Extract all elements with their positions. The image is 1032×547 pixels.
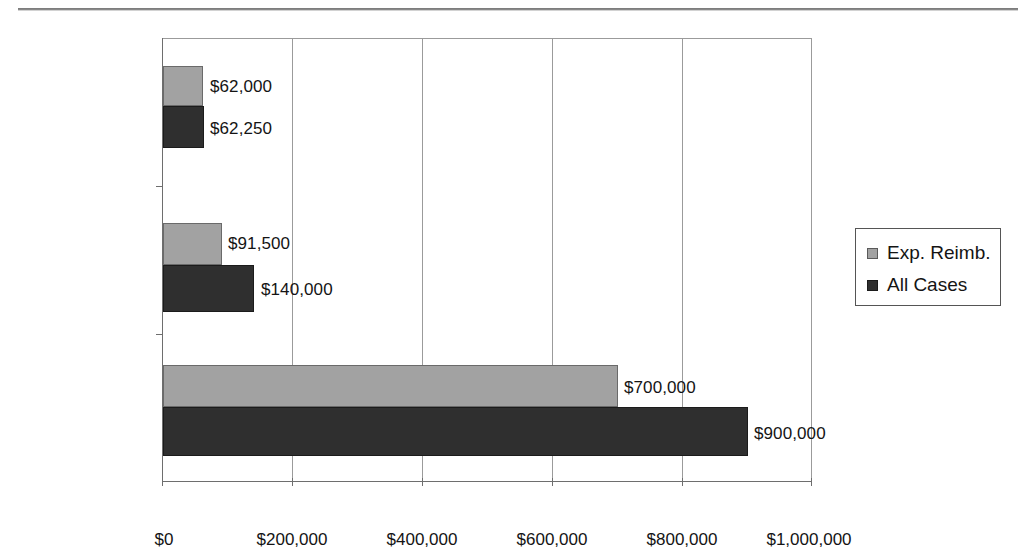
x-axis-tick-label: $800,000 [647, 530, 718, 547]
x-axis-tick-label: $600,000 [517, 530, 588, 547]
bar-manager-all-cases [163, 265, 254, 312]
y-axis-tick [156, 186, 163, 187]
plot-border-right [811, 38, 812, 482]
x-axis-tick [422, 478, 423, 486]
plot-area: $62,000 $62,250 $91,500 $140,000 $700,00… [162, 38, 812, 482]
x-axis-tick [682, 478, 683, 486]
y-axis-tick [156, 334, 163, 335]
x-axis-tick [811, 478, 812, 486]
data-label-manager-exp-reimb: $91,500 [228, 234, 290, 254]
legend-label: All Cases [887, 274, 967, 296]
x-axis-tick-label: $1,000,000 [766, 530, 851, 547]
bar-employee-all-cases [163, 106, 204, 148]
data-label-employee-exp-reimb: $62,000 [210, 77, 272, 97]
bar-owner-exp-reimb [163, 365, 618, 407]
x-axis-tick [552, 478, 553, 486]
data-label-owner-all-cases: $900,000 [754, 424, 826, 444]
x-axis-tick-label: $0 [155, 530, 174, 547]
legend-entry-all-cases[interactable]: All Cases [867, 274, 967, 296]
data-label-employee-all-cases: $62,250 [210, 119, 272, 139]
plot-border-top [162, 38, 812, 39]
x-axis-tick [162, 478, 163, 486]
x-axis-line [162, 481, 812, 482]
chart-legend: Exp. Reimb. All Cases [855, 228, 1001, 306]
legend-swatch-icon [867, 280, 878, 291]
bar-owner-all-cases [163, 407, 748, 456]
legend-label: Exp. Reimb. [887, 242, 990, 264]
legend-swatch-icon [867, 248, 878, 259]
bar-manager-exp-reimb [163, 223, 222, 265]
x-axis-tick [292, 478, 293, 486]
data-label-owner-exp-reimb: $700,000 [624, 378, 696, 398]
data-label-manager-all-cases: $140,000 [261, 280, 333, 300]
horizontal-bar-chart: Employee Manager Owner $62,000 $ [0, 0, 1032, 547]
bar-employee-exp-reimb [163, 66, 203, 106]
x-axis-tick-label: $400,000 [387, 530, 458, 547]
legend-entry-exp-reimb[interactable]: Exp. Reimb. [867, 242, 990, 264]
x-axis-tick-label: $200,000 [257, 530, 328, 547]
